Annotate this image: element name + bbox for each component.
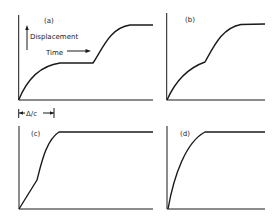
panel-a-axes: [19, 15, 153, 100]
panel-a: (a) Displacement Time: [19, 15, 153, 100]
displacement-arrowhead-icon: [25, 25, 29, 30]
time-arrowhead-icon: [86, 49, 92, 53]
interval-marker: Δ/c: [19, 108, 54, 118]
panel-b-axes: [167, 13, 265, 100]
panel-d-label: (d): [180, 130, 190, 138]
interval-right-arrowhead-icon: [50, 111, 54, 114]
interval-left-arrowhead-icon: [19, 111, 23, 114]
panel-c: (c): [19, 126, 153, 209]
y-axis-label: Displacement: [30, 33, 78, 41]
interval-label: Δ/c: [26, 110, 37, 118]
panel-c-label: (c): [31, 130, 41, 138]
panel-d-curve: [168, 132, 265, 209]
panel-a-label: (a): [44, 17, 54, 25]
panel-c-curve: [19, 132, 153, 209]
panel-b-label: (b): [185, 16, 195, 24]
x-axis-label: Time: [45, 49, 63, 57]
panel-b: (b): [167, 13, 265, 100]
panel-b-curve: [167, 24, 265, 100]
panel-d-axes: [167, 126, 265, 209]
displacement-time-figure: (a) Displacement Time Δ/c (b) (c) (d): [0, 0, 279, 220]
panel-c-axes: [19, 126, 153, 209]
panel-d: (d): [167, 126, 265, 209]
